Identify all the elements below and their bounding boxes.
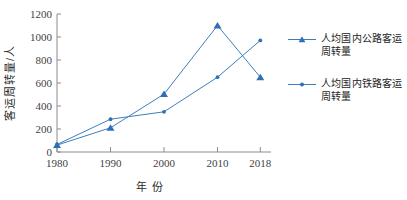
x-tick-label: 2018 — [249, 157, 272, 169]
dot-marker-icon — [288, 78, 316, 91]
y-tick-label: 200 — [36, 123, 53, 135]
x-axis-ticks — [57, 147, 260, 152]
x-tick-label: 1980 — [46, 157, 69, 169]
legend-label-highway-line2: 周转量 — [321, 45, 407, 58]
chart-legend: 人均国内公路客运 周转量 人均国内铁路客运 周转量 — [288, 32, 407, 122]
legend-label-railway: 人均国内铁路客运 周转量 — [321, 77, 407, 103]
y-axis-ticks — [57, 14, 61, 152]
x-axis-tick-labels: 1980 1990 2000 2010 2018 — [46, 157, 272, 169]
x-tick-label: 2000 — [153, 157, 176, 169]
legend-label-railway-line2: 周转量 — [321, 90, 407, 103]
chart-figure: 0 200 400 600 800 1000 1200 1980 1990 20… — [0, 0, 407, 200]
series-railway-line — [57, 40, 260, 144]
x-tick-label: 1990 — [100, 157, 123, 169]
x-tick-label: 2010 — [207, 157, 230, 169]
y-tick-label: 600 — [36, 77, 53, 89]
y-tick-label: 1200 — [30, 8, 53, 20]
legend-label-railway-line1: 人均国内铁路客运 — [321, 77, 407, 90]
y-tick-label: 800 — [36, 54, 53, 66]
x-axis-title: 年 份 — [136, 180, 164, 193]
y-tick-label: 400 — [36, 100, 53, 112]
legend-entry-railway[interactable]: 人均国内铁路客运 周转量 — [288, 77, 407, 103]
series-highway-line — [57, 26, 260, 146]
y-tick-label: 1000 — [30, 31, 53, 43]
triangle-marker-icon — [288, 33, 316, 46]
legend-entry-highway[interactable]: 人均国内公路客运 周转量 — [288, 32, 407, 58]
series-highway-markers — [53, 22, 264, 148]
legend-label-highway: 人均国内公路客运 周转量 — [321, 32, 407, 58]
y-axis-tick-labels: 0 200 400 600 800 1000 1200 — [30, 8, 53, 158]
y-axis-title: 客运周转量/人 — [3, 45, 16, 121]
legend-label-highway-line1: 人均国内公路客运 — [321, 32, 407, 45]
